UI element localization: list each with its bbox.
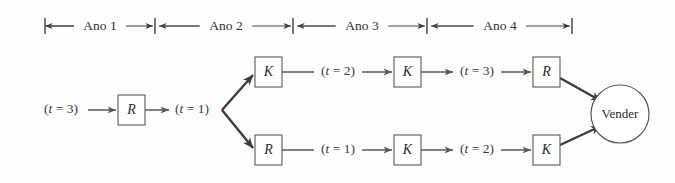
year-segment-ano-1: Ano 1 [45,18,155,34]
node-low-r[interactable]: R [255,135,282,165]
year-segment-ano-2: Ano 2 [159,18,293,34]
year-label-ano-2: Ano 2 [209,18,242,33]
diagram-canvas: Ano 1 Ano 2 Ano 3 [0,0,675,183]
node-up-r[interactable]: R [533,57,560,87]
node-label-root-r: R [126,102,136,117]
node-root-r[interactable]: R [118,95,145,125]
edge-label-low-1: (t = 1) [321,141,355,156]
node-label-up-k2: K [402,64,413,79]
node-low-k2[interactable]: K [533,135,560,165]
node-label-up-r: R [541,64,551,79]
node-up-k2[interactable]: K [394,57,421,87]
year-scale: Ano 1 Ano 2 Ano 3 [45,18,572,34]
edge-label-branch: (t = 1) [175,101,209,116]
edge-up-r-to-vender [560,78,601,101]
edge-label-up-1: (t = 2) [321,63,355,78]
node-label-up-k1: K [263,64,274,79]
node-label-vender: Vender [602,106,639,121]
edge-branch-down [222,110,253,148]
node-low-k1[interactable]: K [394,135,421,165]
node-label-low-k2: K [541,142,552,157]
node-label-low-r: R [263,142,273,157]
edge-label-low-2: (t = 2) [460,141,494,156]
edge-label-up-2: (t = 3) [460,63,494,78]
node-up-k1[interactable]: K [255,57,282,87]
node-label-low-k1: K [402,142,413,157]
year-segment-ano-4: Ano 4 [431,18,572,34]
year-label-ano-3: Ano 3 [345,18,379,33]
node-vender[interactable]: Vender [591,85,649,143]
decision-tree-figure: Ano 1 Ano 2 Ano 3 [0,0,675,183]
year-label-ano-4: Ano 4 [483,18,517,33]
year-segment-ano-3: Ano 3 [297,18,427,34]
edge-branch-up [222,75,253,110]
connectors [88,72,601,150]
year-label-ano-1: Ano 1 [83,18,116,33]
edge-label-start: (t = 3) [44,101,78,116]
